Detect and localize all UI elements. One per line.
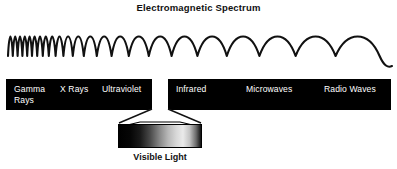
waveform-path [8,37,392,67]
page-title: Electromagnetic Spectrum [0,2,397,13]
band-label-radio-waves: Radio Waves [324,84,376,95]
band-label-gamma-rays: Gamma Rays [14,84,45,105]
waveform-graphic [0,16,397,74]
visible-light-notch [152,79,168,110]
band-label-ultraviolet: Ultraviolet [102,84,141,95]
visible-light-prism [118,121,202,148]
band-label-microwaves: Microwaves [246,84,292,95]
visible-light-caption: Visible Light [118,152,202,162]
visible-light-gradient [118,124,202,148]
band-label-x-rays: X Rays [60,84,88,95]
band-label-infrared: Infrared [176,84,206,95]
electromagnetic-spectrum-diagram: Electromagnetic Spectrum Gamma Rays X Ra… [0,0,397,169]
spectrum-band: Gamma Rays X Rays Ultraviolet Infrared M… [6,79,391,110]
